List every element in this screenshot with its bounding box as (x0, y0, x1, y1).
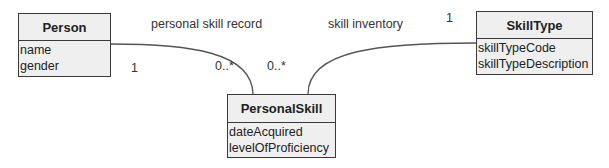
association-line-skilltype-personalskill (308, 43, 476, 94)
class-name: Person (19, 14, 110, 41)
class-skilltype[interactable]: SkillType skillTypeCode skillTypeDescrip… (476, 11, 593, 75)
attribute: gender (20, 58, 110, 74)
class-attributes: dateAcquired levelOfProficiency (228, 123, 335, 156)
attribute: name (20, 42, 110, 58)
class-person[interactable]: Person name gender (18, 13, 111, 77)
multiplicity-label: 0..* (267, 59, 286, 73)
attribute: skillTypeDescription (478, 56, 592, 72)
attribute: levelOfProficiency (229, 140, 335, 156)
attribute: dateAcquired (229, 124, 335, 140)
class-attributes: name gender (19, 41, 110, 74)
class-attributes: skillTypeCode skillTypeDescription (477, 39, 592, 72)
association-label: personal skill record (151, 17, 262, 31)
multiplicity-label: 1 (446, 11, 453, 25)
multiplicity-label: 1 (131, 61, 138, 75)
multiplicity-label: 0..* (215, 59, 234, 73)
association-label: skill inventory (328, 17, 403, 31)
class-name: PersonalSkill (228, 95, 335, 123)
class-personalskill[interactable]: PersonalSkill dateAcquired levelOfProfic… (227, 94, 336, 158)
class-name: SkillType (477, 12, 592, 39)
attribute: skillTypeCode (478, 40, 592, 56)
